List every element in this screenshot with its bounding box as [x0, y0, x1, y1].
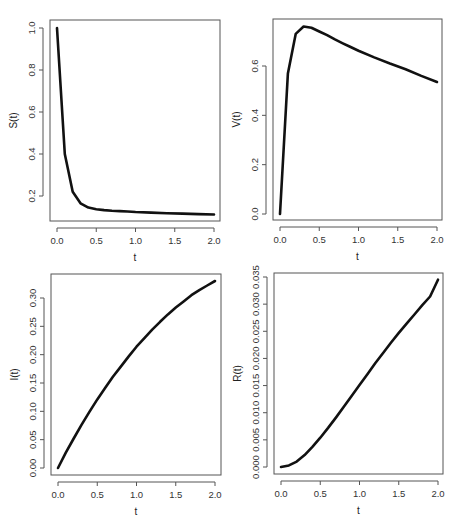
- y-tick-label: 0.10: [27, 402, 38, 421]
- y-axis-label: S(t): [8, 112, 19, 128]
- x-tick-label: 1.5: [169, 489, 182, 500]
- panel-i: 0.00.51.01.52.0t0.000.050.100.150.200.25…: [9, 274, 222, 517]
- y-axis-label: V(t): [231, 111, 242, 127]
- data-line-s: [57, 28, 214, 215]
- y-tick-label: 0.030: [250, 292, 261, 316]
- x-tick-label: 1.5: [392, 488, 405, 499]
- x-tick-label: 1.0: [352, 234, 365, 245]
- y-tick-label: 0.15: [27, 374, 38, 393]
- x-tick-label: 2.0: [430, 234, 443, 245]
- x-tick-label: 2.0: [431, 488, 444, 499]
- x-axis: 0.00.51.01.52.0: [274, 481, 444, 499]
- x-axis: 0.00.51.01.52.0: [50, 228, 220, 246]
- y-tick-label: 0.4: [249, 109, 260, 122]
- x-tick-label: 0.0: [50, 235, 63, 246]
- x-tick-label: 2.0: [208, 489, 221, 500]
- y-tick-label: 0.8: [26, 63, 37, 76]
- y-tick-label: 0.00: [27, 459, 38, 478]
- y-tick-label: 0.035: [250, 265, 261, 289]
- x-axis-label: t: [356, 251, 359, 262]
- y-tick-label: 0.0: [249, 207, 260, 220]
- y-tick-label: 0.010: [250, 401, 261, 425]
- y-tick-label: 0.020: [250, 347, 261, 371]
- panel-s: 0.00.51.01.52.0t0.20.40.60.81.0S(t): [8, 20, 221, 263]
- y-tick-label: 0.015: [250, 374, 261, 398]
- plot-frame: [51, 274, 221, 475]
- y-axis: 0.00.20.40.6: [249, 59, 266, 220]
- x-tick-label: 0.5: [91, 489, 104, 500]
- x-tick-label: 0.5: [314, 488, 327, 499]
- y-tick-label: 0.6: [249, 59, 260, 72]
- y-axis-label: I(t): [9, 368, 20, 380]
- y-tick-label: 0.25: [27, 317, 38, 336]
- data-line-r: [281, 280, 438, 467]
- x-tick-label: 1.0: [353, 488, 366, 499]
- figure-grid: 0.00.51.01.52.0t0.20.40.60.81.0S(t) 0.00…: [0, 0, 461, 518]
- x-tick-label: 0.0: [51, 489, 64, 500]
- y-tick-label: 0.025: [250, 319, 261, 343]
- y-axis: 0.20.40.60.81.0: [26, 21, 43, 202]
- x-axis-label: t: [135, 506, 138, 517]
- y-axis-label: R(t): [232, 365, 243, 382]
- data-line-i: [58, 281, 215, 468]
- y-axis: 0.0000.0050.0100.0150.0200.0250.0300.035: [250, 265, 267, 479]
- y-tick-label: 1.0: [26, 21, 37, 34]
- y-tick-label: 0.4: [26, 147, 37, 160]
- x-tick-label: 1.0: [129, 235, 142, 246]
- y-tick-label: 0.6: [26, 105, 37, 118]
- x-axis-label: t: [357, 505, 360, 516]
- panel-v: 0.00.51.01.52.0t0.00.20.40.6V(t): [231, 19, 444, 262]
- y-axis: 0.000.050.100.150.200.250.30: [27, 289, 44, 478]
- four-panel-line-charts: 0.00.51.01.52.0t0.20.40.60.81.0S(t) 0.00…: [0, 0, 461, 518]
- x-tick-label: 0.0: [274, 488, 287, 499]
- plot-frame: [50, 20, 220, 221]
- panel-r: 0.00.51.01.52.0t0.0000.0050.0100.0150.02…: [232, 265, 445, 516]
- y-tick-label: 0.2: [249, 158, 260, 171]
- y-tick-label: 0.05: [27, 430, 38, 449]
- y-tick-label: 0.005: [250, 428, 261, 452]
- x-tick-label: 1.0: [130, 489, 143, 500]
- x-tick-label: 1.5: [168, 235, 181, 246]
- x-tick-label: 0.5: [90, 235, 103, 246]
- x-tick-label: 0.0: [273, 234, 286, 245]
- y-tick-label: 0.20: [27, 345, 38, 364]
- x-tick-label: 1.5: [391, 234, 404, 245]
- x-axis: 0.00.51.01.52.0: [273, 227, 443, 245]
- y-tick-label: 0.30: [27, 289, 38, 308]
- y-tick-label: 0.000: [250, 455, 261, 479]
- data-line-v: [280, 27, 437, 215]
- x-tick-label: 2.0: [207, 235, 220, 246]
- x-axis: 0.00.51.01.52.0: [51, 482, 221, 500]
- plot-frame: [274, 273, 443, 474]
- x-tick-label: 0.5: [313, 234, 326, 245]
- y-tick-label: 0.2: [26, 189, 37, 202]
- x-axis-label: t: [134, 252, 137, 263]
